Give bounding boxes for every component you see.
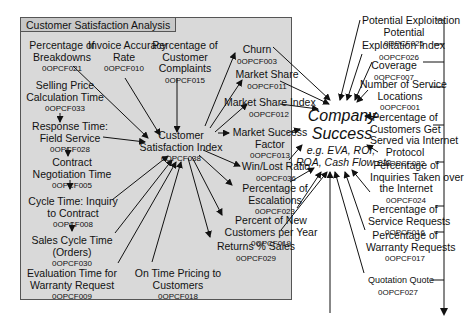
node-on-time-pricing: On Time Pricing to Customers0OPCF018 bbox=[130, 268, 226, 302]
node-response-time-field-service: Response Time: Field Service0OPCF028 bbox=[30, 121, 110, 155]
node-contract-negotiation-time: Contract Negotiation Time0OPCF005 bbox=[30, 157, 114, 191]
node-percentage-warranty-requests: Percentage of Warranty Requests0OPCF017 bbox=[366, 230, 444, 264]
node-inquiries-over-internet: Percentage of Inquiries Taken over the I… bbox=[370, 160, 442, 206]
node-churn: Churn0OPCF003 bbox=[232, 44, 282, 67]
node-customer-satisfaction-index: Customer Satisfaction Index0OPCF038 bbox=[138, 130, 224, 164]
node-cycle-time-inquiry-to-contract: Cycle Time: Inquiry to Contract0OPCF008 bbox=[28, 196, 118, 230]
node-number-of-service-locations: Number of Service Locations0OPCF001 bbox=[360, 79, 440, 113]
node-sales-cycle-time: Sales Cycle Time (Orders)0OPCF030 bbox=[30, 235, 114, 269]
node-quotation-quote: Quotation Quote0OPCF027 bbox=[368, 275, 428, 298]
node-market-share-index: Market Share Index0OPCF012 bbox=[224, 97, 314, 120]
node-percentage-of-escalations: Percentage of Escalations0OPCF023 bbox=[238, 183, 312, 217]
node-returns-sales: Returns % Sales0OPCF029 bbox=[214, 241, 298, 264]
node-percentage-customer-complaints: Percentage of Customer Complaints0OPCF01… bbox=[150, 40, 220, 86]
node-market-share: Market Share0OPCF011 bbox=[232, 69, 302, 92]
node-selling-price-calculation-time: Selling Price Calculation Time0OPCF033 bbox=[20, 80, 110, 114]
node-evaluation-time-warranty-request: Evaluation Time for Warranty Request0OPC… bbox=[22, 268, 122, 302]
